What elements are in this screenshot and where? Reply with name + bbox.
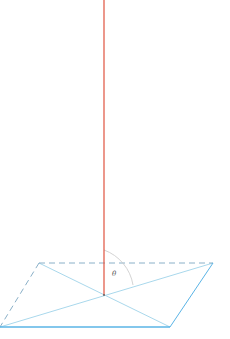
angle-label: θ bbox=[112, 270, 117, 278]
plane-right-edge bbox=[170, 263, 213, 327]
diagonal-2 bbox=[0, 263, 213, 327]
angle-arc bbox=[104, 250, 133, 285]
intersection-point bbox=[103, 294, 105, 296]
